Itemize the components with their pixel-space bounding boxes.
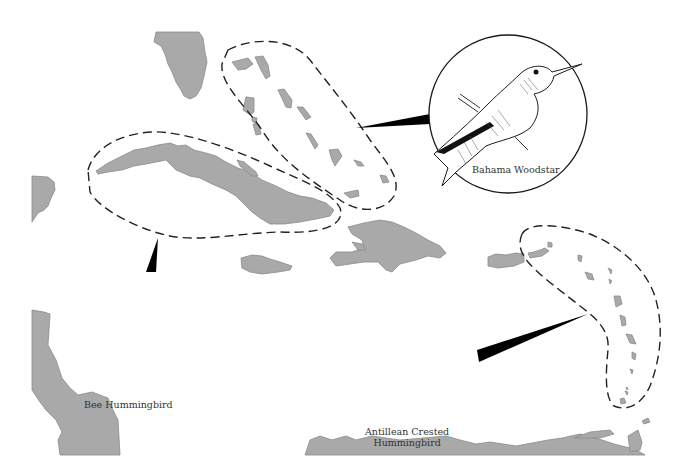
land-puerto-rico <box>488 253 524 268</box>
pointer-antillean-crested <box>477 314 588 362</box>
lesser-antilles-islands <box>528 242 636 404</box>
pointer-bahama-woodstar <box>356 114 430 128</box>
label-antillean-crested-line1: Antillean Crested <box>365 426 449 437</box>
land-jamaica <box>241 255 292 274</box>
land-florida <box>154 32 207 99</box>
land-trinidad <box>628 430 642 452</box>
label-antillean-crested: Antillean Crested Hummingbird <box>365 426 449 448</box>
land-central-america <box>32 310 120 455</box>
pointer-bee-hummingbird <box>146 238 158 272</box>
label-bahama-woodstar: Bahama Woodstar <box>472 164 560 175</box>
land-hispaniola <box>330 220 446 272</box>
label-bee-hummingbird: Bee Hummingbird <box>84 399 173 410</box>
land-cuba <box>96 143 334 224</box>
label-antillean-crested-line2: Hummingbird <box>365 437 449 448</box>
land-yucatan <box>32 176 55 222</box>
